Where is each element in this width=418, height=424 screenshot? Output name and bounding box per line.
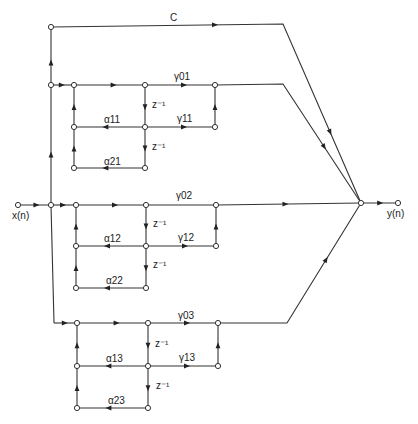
delay-arrow-1a	[143, 104, 148, 110]
alpha2-label-3: α23	[108, 395, 125, 406]
input-arrow	[33, 203, 39, 208]
splitter-lower	[51, 205, 54, 323]
alpha2-arrow-3	[105, 406, 111, 411]
direct-gain-label: C	[170, 12, 177, 23]
alpha2-label-1: α21	[104, 156, 121, 167]
diagram-canvas: x(n) y(n) C γ01 γ11 α11 α21 z⁻¹ z⁻¹ γ02 …	[0, 0, 418, 424]
gamma0-path-1	[145, 84, 361, 203]
delay-arrow-1b	[143, 146, 148, 152]
delay-arrow-3b	[146, 385, 151, 391]
section-2-node	[213, 243, 218, 248]
gamma0-diag-arrow-3	[323, 257, 328, 263]
delay-label-2b: z⁻¹	[153, 259, 167, 270]
section-1-node	[212, 124, 217, 129]
section-2-node	[143, 243, 148, 248]
alpha1-label-1: α11	[104, 114, 121, 125]
entry-arrow-1	[59, 83, 65, 88]
section-1-node	[212, 82, 217, 87]
delay-arrow-2a	[144, 224, 149, 230]
direct-path-c	[51, 24, 361, 203]
feedback-arrow-2a	[74, 223, 79, 229]
feedback-arrow-2b	[74, 265, 79, 271]
alpha2-label-2: α22	[106, 275, 123, 286]
delay-arrow-2b	[144, 265, 149, 271]
gamma1-up-arrow-1	[213, 104, 218, 110]
gamma1-label-2: γ12	[178, 232, 195, 243]
section-2-node	[213, 202, 218, 207]
feedback-arrow-3a	[75, 342, 80, 348]
delay-arrow-3a	[146, 343, 151, 349]
gamma1-arrow-2	[182, 244, 188, 249]
direct-arrow-1	[212, 23, 218, 28]
section-1-node	[142, 124, 147, 129]
section-2-node	[143, 285, 148, 290]
gamma0-label-2: γ02	[176, 190, 193, 201]
splitter-arrow-c	[49, 59, 54, 65]
section-3-node	[74, 320, 79, 325]
section-2-node	[143, 202, 148, 207]
summing-node	[358, 200, 363, 205]
gamma1-up-arrow-3	[216, 342, 221, 348]
direct-arrow-2	[327, 129, 332, 135]
section-2-node	[73, 285, 78, 290]
section-3-node	[74, 405, 79, 410]
alpha1-label-3: α13	[106, 353, 123, 364]
delay-label-3b: z⁻¹	[156, 380, 170, 391]
gamma1-label-3: γ13	[179, 352, 196, 363]
input-node	[15, 202, 20, 207]
alpha1-arrow-3	[105, 364, 111, 369]
section-3-node	[145, 405, 150, 410]
output-node	[395, 200, 400, 205]
alpha1-arrow-2	[104, 244, 110, 249]
section-2-node	[73, 202, 78, 207]
section-1-node	[71, 82, 76, 87]
section-1-node	[71, 124, 76, 129]
gamma1-up-arrow-2	[214, 223, 219, 229]
gamma0-label-1: γ01	[174, 71, 191, 82]
delay-label-1a: z⁻¹	[152, 99, 166, 110]
gamma0-path-2	[146, 203, 361, 205]
section-1-node	[142, 82, 147, 87]
forward-arrow-2	[112, 203, 118, 208]
section-3-node	[215, 320, 220, 325]
gamma0-arrow-1	[181, 83, 187, 88]
gamma0-arrow-2	[282, 202, 288, 207]
feedback-arrow-1a	[72, 104, 77, 110]
section-3-node	[145, 363, 150, 368]
alpha1-label-2: α12	[104, 233, 121, 244]
section-1-node	[142, 165, 147, 170]
splitter-arrow-up	[49, 151, 54, 157]
feedback-arrow-3b	[75, 385, 80, 391]
input-label: x(n)	[12, 210, 29, 221]
delay-label-1b: z⁻¹	[152, 141, 166, 152]
forward-arrow-3	[114, 321, 120, 326]
entry-arrow-2	[60, 203, 66, 208]
gamma1-arrow-3	[184, 364, 190, 369]
delay-label-3a: z⁻¹	[155, 338, 169, 349]
splitter-node-c	[48, 24, 53, 29]
feedback-arrow-1b	[72, 145, 77, 151]
gamma0-arrow-3	[184, 321, 190, 326]
gamma1-label-1: γ11	[177, 113, 193, 124]
section-3-node	[145, 320, 150, 325]
alpha1-arrow-1	[102, 125, 108, 130]
splitter-node-1	[48, 82, 53, 87]
entry-arrow-3	[62, 321, 68, 326]
delay-label-2a: z⁻¹	[153, 218, 167, 229]
gamma0-path-3	[148, 203, 361, 323]
output-label: y(n)	[387, 208, 404, 219]
section-3-node	[74, 363, 79, 368]
splitter-node-2	[48, 202, 53, 207]
gamma0-label-3: γ03	[178, 310, 195, 321]
alpha2-arrow-2	[104, 286, 110, 291]
section-3-node	[215, 363, 220, 368]
gamma0-diag-arrow-1	[321, 143, 326, 149]
section-1-node	[71, 165, 76, 170]
section-2-node	[73, 243, 78, 248]
signal-flow-graph: x(n) y(n) C γ01 γ11 α11 α21 z⁻¹ z⁻¹ γ02 …	[0, 0, 418, 424]
gamma1-arrow-1	[181, 125, 187, 130]
output-arrow	[377, 201, 383, 206]
forward-arrow-1	[111, 83, 117, 88]
